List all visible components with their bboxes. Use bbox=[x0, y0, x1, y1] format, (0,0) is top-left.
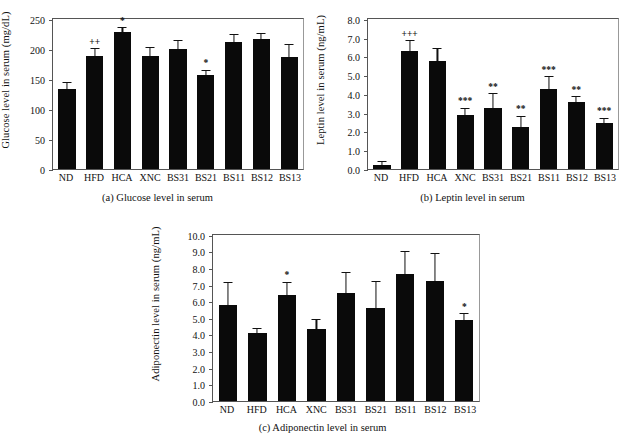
bar bbox=[58, 89, 75, 169]
bar-slot bbox=[331, 235, 361, 401]
error-bar-cap bbox=[401, 251, 410, 252]
panel-b-plot-area: 0.01.02.03.04.05.06.07.08.0 +++*********… bbox=[367, 18, 619, 170]
error-bar bbox=[261, 34, 262, 39]
bar bbox=[366, 308, 384, 401]
y-tick-label: 2.0 bbox=[193, 364, 206, 375]
y-tick-label: 10.0 bbox=[188, 231, 206, 242]
y-tick: 8.0 bbox=[193, 259, 214, 277]
error-bar-cap bbox=[600, 118, 609, 119]
bar-slot: ++ bbox=[81, 19, 109, 169]
error-bar bbox=[437, 49, 438, 60]
error-bar-cap bbox=[253, 328, 262, 329]
y-tick: 2.0 bbox=[193, 359, 214, 377]
bar-slot bbox=[368, 19, 396, 169]
y-tick-label: 0.0 bbox=[193, 397, 206, 408]
error-bar bbox=[227, 283, 228, 305]
bar-slot: * bbox=[109, 19, 137, 169]
error-bar-cap bbox=[285, 44, 294, 45]
panel-c-adiponectin: Adiponectin level in serum (ng/mL) 0.01.… bbox=[150, 218, 495, 443]
y-tick: 8.0 bbox=[348, 10, 369, 28]
bar bbox=[429, 61, 446, 169]
bar-slot: ** bbox=[479, 19, 507, 169]
y-tick: 1.0 bbox=[193, 375, 214, 393]
x-tick-label: BS21 bbox=[192, 172, 220, 183]
bar-slot: * bbox=[272, 235, 302, 401]
bar-slot: ** bbox=[562, 19, 590, 169]
significance-marker: *** bbox=[458, 97, 472, 107]
error-bar-cap bbox=[461, 108, 470, 109]
error-bar bbox=[604, 119, 605, 123]
y-tick-mark bbox=[209, 402, 213, 403]
error-bar-cap bbox=[257, 33, 266, 34]
y-tick: 10.0 bbox=[188, 226, 214, 244]
x-tick-label: BS31 bbox=[164, 172, 192, 183]
bar: * bbox=[455, 320, 473, 401]
error-bar bbox=[205, 71, 206, 75]
panel-b-leptin: Leptin level in serum (ng/mL) 0.01.02.03… bbox=[315, 0, 630, 215]
panel-a-bars: ++** bbox=[53, 19, 303, 169]
x-tick-label: ND bbox=[52, 172, 80, 183]
x-tick-label: HFD bbox=[242, 404, 272, 415]
bar-slot: *** bbox=[451, 19, 479, 169]
y-tick-label: 2.0 bbox=[348, 127, 361, 138]
error-bar-cap bbox=[405, 40, 414, 41]
error-bar-cap bbox=[516, 116, 525, 117]
x-tick-label: BS21 bbox=[361, 404, 391, 415]
bar: *** bbox=[596, 123, 613, 169]
x-tick-label: BS11 bbox=[391, 404, 421, 415]
error-bar bbox=[122, 28, 123, 32]
error-bar-cap bbox=[312, 319, 321, 320]
error-bar-cap bbox=[282, 282, 291, 283]
bar: ** bbox=[512, 127, 529, 169]
error-bar-cap bbox=[118, 27, 127, 28]
x-tick-label: ND bbox=[212, 404, 242, 415]
bar: ** bbox=[568, 102, 585, 169]
error-bar bbox=[405, 252, 406, 274]
significance-marker: *** bbox=[541, 66, 555, 76]
y-tick: 9.0 bbox=[193, 243, 214, 261]
y-tick-label: 250 bbox=[30, 15, 45, 26]
significance-marker: *** bbox=[597, 107, 611, 117]
x-tick-label: BS31 bbox=[331, 404, 361, 415]
significance-marker: * bbox=[120, 17, 125, 27]
y-tick-mark bbox=[364, 170, 368, 171]
error-bar-cap bbox=[460, 313, 469, 314]
panel-c-caption: (c) Adiponectin level in serum bbox=[150, 422, 495, 433]
error-bar-cap bbox=[201, 70, 210, 71]
y-tick-label: 7.0 bbox=[348, 34, 361, 45]
y-tick: 0.0 bbox=[193, 392, 214, 410]
panel-b-caption: (b) Leptin level in serum bbox=[315, 192, 630, 203]
bar bbox=[169, 49, 186, 169]
x-tick-label: BS13 bbox=[276, 172, 304, 183]
y-tick-label: 3.0 bbox=[348, 109, 361, 120]
bar-slot: *** bbox=[590, 19, 618, 169]
bar-slot bbox=[213, 235, 243, 401]
y-tick: 4.0 bbox=[348, 85, 369, 103]
error-bar-cap bbox=[146, 47, 155, 48]
significance-marker: ** bbox=[572, 86, 582, 96]
bar-slot bbox=[220, 19, 248, 169]
bar-slot bbox=[136, 19, 164, 169]
x-tick-label: HFD bbox=[395, 172, 423, 183]
panel-c-bars: ** bbox=[213, 235, 479, 401]
error-bar bbox=[381, 162, 382, 164]
y-tick: 5.0 bbox=[193, 309, 214, 327]
error-bar-cap bbox=[544, 76, 553, 77]
error-bar-cap bbox=[223, 282, 232, 283]
error-bar bbox=[66, 83, 67, 88]
y-tick-label: 4.0 bbox=[193, 330, 206, 341]
y-tick: 50 bbox=[35, 130, 53, 148]
error-bar-cap bbox=[430, 253, 439, 254]
x-tick-label: BS12 bbox=[420, 404, 450, 415]
panel-b-y-axis-label: Leptin level in serum (ng/mL) bbox=[315, 0, 326, 160]
y-tick: 0.0 bbox=[348, 160, 369, 178]
bar-slot bbox=[302, 235, 332, 401]
error-bar bbox=[286, 283, 287, 295]
bar-slot bbox=[243, 235, 273, 401]
panel-a-y-axis-label: Glucose level in serum (mg/dL) bbox=[0, 0, 11, 160]
error-bar bbox=[409, 41, 410, 51]
y-tick: 4.0 bbox=[193, 326, 214, 344]
panel-a-plot-area: 050100150200250 ++** bbox=[52, 18, 304, 170]
error-bar bbox=[465, 109, 466, 116]
y-tick-label: 5.0 bbox=[348, 71, 361, 82]
